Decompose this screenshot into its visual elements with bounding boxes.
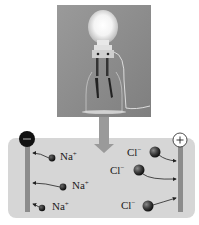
apparatus-photo <box>57 5 151 117</box>
electrolyte-conductivity-diagram: Na+ Na+ Na+ Cl− Cl− Cl− <box>0 0 199 225</box>
light-bulb-icon <box>88 10 118 44</box>
